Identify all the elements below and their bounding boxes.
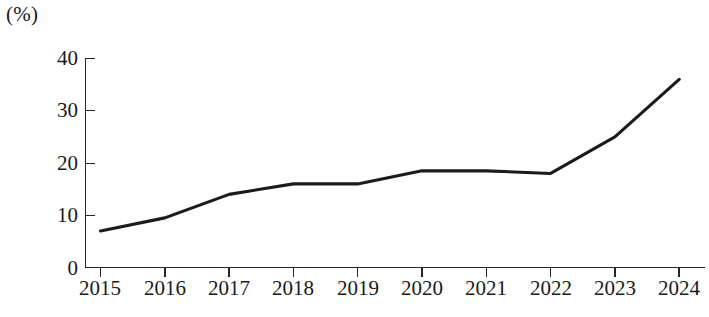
y-axis-ticks: [86, 59, 95, 216]
line-chart: (%) 40 30 20 10 0 2015: [0, 0, 709, 317]
plot-area: [0, 0, 709, 317]
x-tick-label-2024: 2024: [639, 278, 709, 299]
x-axis-ticks: [101, 268, 680, 277]
data-series-line: [101, 79, 680, 231]
